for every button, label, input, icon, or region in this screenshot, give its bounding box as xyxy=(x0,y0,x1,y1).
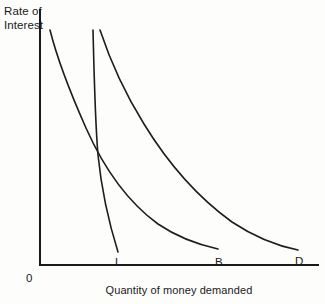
curve-label-l: L xyxy=(115,256,121,268)
curve-label-b: B xyxy=(215,256,223,268)
chart-plot-area xyxy=(0,0,325,304)
x-axis-label: Quantity of money demanded xyxy=(40,284,318,298)
demand-curve-l xyxy=(93,30,118,252)
demand-curve-b xyxy=(50,30,218,249)
curve-label-d: D xyxy=(295,255,303,267)
origin-label: 0 xyxy=(26,272,33,286)
money-demand-chart: Rate ofInterest Quantity of money demand… xyxy=(0,0,325,304)
y-axis-label: Rate ofInterest xyxy=(4,5,43,32)
y-axis-label-line-1: Rate of xyxy=(4,5,43,19)
demand-curve-d xyxy=(100,30,298,250)
y-axis-label-line-2: Interest xyxy=(4,19,43,33)
